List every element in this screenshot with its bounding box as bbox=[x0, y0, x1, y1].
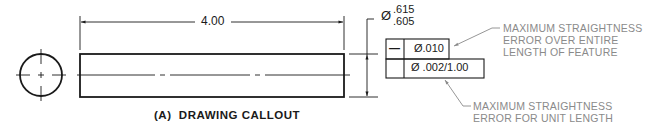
diameter-upper-limit: .615 bbox=[393, 4, 414, 15]
note-line: MAXIMUM STRAIGHTNESS bbox=[473, 100, 613, 112]
note-line: ERROR OVER ENTIRE bbox=[503, 34, 642, 46]
diameter-dimension bbox=[349, 19, 378, 97]
diameter-lower-limit: .605 bbox=[393, 16, 414, 27]
figure-caption: (A) DRAWING CALLOUT bbox=[154, 109, 300, 121]
fcf-row1-tolerance: Ø.010 bbox=[414, 42, 444, 54]
straightness-symbol-icon: — bbox=[389, 42, 400, 54]
note-unit-straightness: MAXIMUM STRAIGHTNESS ERROR FOR UNIT LENG… bbox=[473, 100, 613, 124]
note-line: LENGTH OF FEATURE bbox=[503, 46, 642, 58]
fcf-row2-tolerance: Ø .002/1.00 bbox=[411, 61, 469, 73]
diameter-symbol: Ø bbox=[381, 8, 391, 23]
length-dimension-value: 4.00 bbox=[201, 14, 224, 28]
end-view-circle bbox=[16, 49, 66, 101]
note-line: MAXIMUM STRAIGHTNESS bbox=[503, 22, 642, 34]
side-view-shaft bbox=[77, 54, 350, 97]
note-overall-straightness: MAXIMUM STRAIGHTNESS ERROR OVER ENTIRE L… bbox=[503, 22, 642, 58]
note-line: ERROR FOR UNIT LENGTH bbox=[473, 112, 613, 124]
